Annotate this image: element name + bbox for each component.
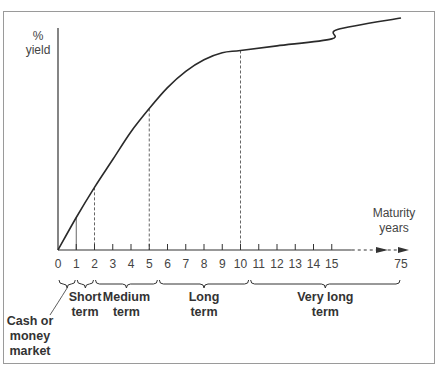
y-axis-title-line2: yield <box>26 43 51 57</box>
x-tick-label: 7 <box>182 257 189 271</box>
x-axis-arrowhead <box>376 247 388 253</box>
term-label: market <box>10 344 52 358</box>
x-tick-label: 3 <box>109 257 116 271</box>
x-tick-label: 14 <box>307 257 321 271</box>
x-axis-title-line1: Maturity <box>373 206 416 220</box>
x-tick-label: 11 <box>253 257 266 271</box>
term-braces: Cash ormoneymarketShorttermMediumtermLon… <box>7 280 400 358</box>
x-tick-label: 6 <box>164 257 171 271</box>
term-label: Cash or <box>7 314 54 328</box>
x-axis-title-line2: years <box>379 221 408 235</box>
x-axis-arrowhead <box>398 247 409 253</box>
term-label: Medium <box>103 290 150 304</box>
x-tick-label: 0 <box>55 257 62 271</box>
y-axis-title-line1: % <box>33 29 44 43</box>
cash-leader-line <box>50 288 67 315</box>
term-brace <box>77 280 93 288</box>
term-brace <box>251 280 400 288</box>
x-tick-label: 15 <box>325 257 339 271</box>
x-tick-label: 13 <box>289 257 303 271</box>
x-tick-label: 4 <box>128 257 135 271</box>
term-brace <box>96 280 158 288</box>
term-label: term <box>71 305 98 319</box>
x-tick-label: 12 <box>270 257 284 271</box>
x-tick-label: 10 <box>234 257 248 271</box>
term-label: term <box>113 305 140 319</box>
x-tick-label: 1 <box>73 257 80 271</box>
term-label: money <box>10 329 50 343</box>
term-label: Very long <box>297 290 353 304</box>
x-tick-label: 8 <box>201 257 208 271</box>
x-tick-label: 75 <box>394 257 408 271</box>
term-brace <box>159 280 248 288</box>
chart-frame <box>4 12 435 364</box>
term-label: Long <box>189 290 220 304</box>
x-tick-label: 9 <box>219 257 226 271</box>
term-brace <box>59 280 75 288</box>
term-label: Short <box>69 290 102 304</box>
axes <box>58 28 409 253</box>
reference-lines <box>76 50 240 250</box>
term-label: term <box>190 305 217 319</box>
x-tick-label: 5 <box>146 257 153 271</box>
x-ticks: 012345678910111213141575 <box>55 244 408 271</box>
term-label: term <box>312 305 339 319</box>
x-tick-label: 2 <box>91 257 98 271</box>
yield-curve-line <box>58 18 401 250</box>
yield-curve-chart: 012345678910111213141575 Cash ormoneymar… <box>0 0 437 367</box>
